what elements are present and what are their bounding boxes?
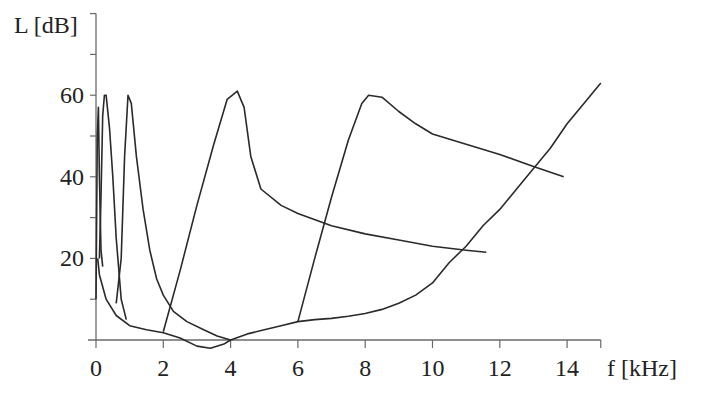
- x-tick-label: 10: [421, 355, 445, 381]
- chart-container: 20406002468101214 L [dB] f [kHz]: [0, 0, 703, 397]
- threshold-in-quiet: [98, 83, 601, 348]
- frequency-masking-chart: 20406002468101214 L [dB] f [kHz]: [0, 0, 703, 397]
- x-tick-label: 0: [90, 355, 102, 381]
- curves: [96, 83, 601, 348]
- x-tick-label: 8: [359, 355, 371, 381]
- x-tick-label: 12: [488, 355, 512, 381]
- x-tick-label: 14: [555, 355, 579, 381]
- x-tick-label: 4: [225, 355, 237, 381]
- y-tick-label: 60: [60, 82, 84, 108]
- masking-curve-8kHz: [298, 95, 564, 321]
- y-tick-label: 20: [60, 245, 84, 271]
- x-tick-label: 2: [157, 355, 169, 381]
- x-tick-label: 6: [292, 355, 304, 381]
- masking-curve-1kHz: [116, 95, 230, 340]
- y-axis-label: L [dB]: [14, 12, 78, 38]
- masking-curve-4kHz: [163, 91, 486, 332]
- y-tick-label: 40: [60, 164, 84, 190]
- x-axis-label: f [kHz]: [607, 355, 677, 381]
